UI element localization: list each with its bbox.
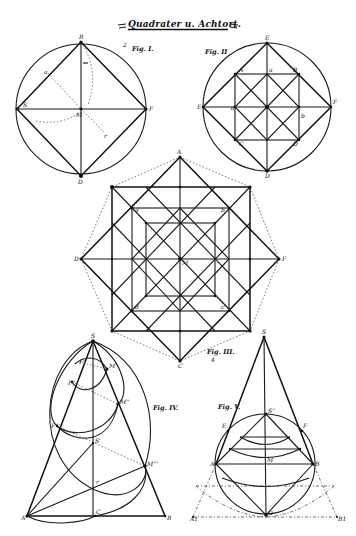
- fig5-point-ext-left: A1: [189, 515, 198, 522]
- fig3-point-center: M: [181, 259, 189, 266]
- fig3-point-top: A: [176, 148, 182, 155]
- fig2-label: Fig. II: [204, 48, 228, 56]
- fig2-point-sq-tr: B: [292, 66, 298, 73]
- fig2-point-bottom: D: [264, 172, 270, 179]
- fig2-point-mid-right: b: [301, 112, 305, 119]
- fig2-point-sq-br: D: [292, 140, 298, 147]
- plate-title: Quadrater u. Achtort.: [118, 19, 241, 30]
- fig2-point-sq-bl: C: [239, 140, 244, 147]
- fig1-point-a: a: [44, 68, 48, 75]
- fig3-point-bottom: C: [178, 362, 183, 369]
- figure-4: S A B C F' F'' F''' M' M'' M''' S' r Fig…: [20, 332, 178, 523]
- fig4-point-right-3: M''': [146, 460, 158, 467]
- fig4-point-right-1: M': [108, 362, 117, 369]
- fig5-point-bottom: D: [267, 509, 273, 516]
- fig2-point-top: E: [264, 34, 270, 41]
- fig4-point-axis-mid: S': [95, 437, 101, 444]
- fig1-label: Fig. I.: [131, 45, 153, 53]
- fig4-point-left-1: F': [78, 358, 85, 365]
- fig1-marker: 2: [122, 41, 127, 48]
- fig1-point-D: D: [77, 178, 83, 185]
- fig4-point-left-2: F'': [67, 379, 76, 386]
- fig3-sublabel: 4: [210, 356, 215, 363]
- fig4-point-right-2: M'': [119, 398, 130, 405]
- fig4-point-apex: S: [91, 332, 95, 339]
- fig3-point-inner-tl: a: [135, 206, 139, 213]
- fig4-radius-r: r: [96, 478, 100, 485]
- fig4-point-left-3: F''': [50, 422, 60, 429]
- fig4-label: Fig. IV.: [152, 404, 178, 412]
- fig3-label: Fig. III.: [206, 348, 235, 356]
- fig5-point-right: B: [314, 460, 320, 467]
- fig5-point-upper-right: F: [302, 422, 308, 429]
- fig2-point-sq-tl: A: [238, 66, 244, 73]
- fig4-point-base-right: B: [166, 514, 172, 521]
- fig3-point-left: D: [73, 255, 79, 262]
- fig1-radius-r: r: [104, 132, 108, 139]
- fig1-point-F: F: [148, 105, 154, 112]
- title-text: Quadrater u. Achtort.: [128, 19, 241, 29]
- fig5-point-ext-right: B1: [337, 515, 346, 522]
- figure-1: B F S M D a r 2 Fig. I.: [16, 33, 154, 185]
- fig3-point-right: F: [281, 255, 287, 262]
- fig2-point-mid-left: d: [231, 104, 235, 111]
- fig2-point-mid-top: a: [269, 66, 273, 73]
- fig4-point-base-left: A: [20, 514, 26, 521]
- fig2-point-right: F: [332, 98, 338, 105]
- figure-2: E E F D A B C D a d b Fig. II: [196, 34, 338, 179]
- figure-3: A D F C M a b d c Fig. III. 4: [73, 148, 287, 369]
- fig5-point-left: A: [209, 460, 215, 467]
- fig5-label: Fig. V.: [217, 403, 240, 411]
- fig5-point-center: M: [266, 456, 274, 463]
- fig3-point-inner-bl: d: [135, 303, 139, 310]
- fig1-point-B: B: [78, 33, 84, 40]
- fig5-point-upper-left: E: [221, 422, 227, 429]
- fig2-point-left: E: [196, 103, 202, 110]
- fig3-point-inner-tr: b: [221, 206, 225, 213]
- fig1-point-S: S: [23, 101, 27, 108]
- fig5-point-apex: S: [262, 328, 266, 335]
- geometry-plate: Quadrater u. Achtort. B F S M D a r 2 Fi…: [0, 0, 356, 536]
- fig4-point-base-mid: C: [96, 508, 101, 515]
- fig1-point-M: M: [75, 111, 83, 118]
- fig5-point-circle-top: S'': [268, 407, 276, 414]
